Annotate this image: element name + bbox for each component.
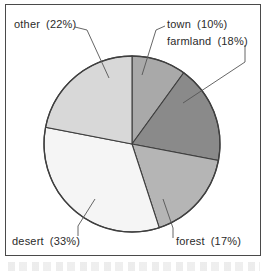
pie-label-desert-percent: (33%) [50,235,80,247]
pie-label-farmland-percent: (18%) [217,35,247,47]
pie-label-town-percent: (10%) [197,18,227,30]
pie-label-other: other(22%) [14,18,76,30]
pie-label-desert: desert(33%) [12,235,80,247]
pie-label-desert-name: desert [12,235,44,247]
pie-chart-figure: other(22%) town(10%) farmland(18%) deser… [0,0,268,273]
pie-label-farmland: farmland(18%) [167,35,248,47]
pie-label-forest-name: forest [176,235,205,247]
pie-label-town-name: town [167,18,191,30]
pie-label-forest-percent: (17%) [211,235,241,247]
scan-artifact-strip [8,262,260,271]
pie-label-farmland-name: farmland [167,35,211,47]
pie-label-forest: forest(17%) [176,235,241,247]
pie-label-other-percent: (22%) [46,18,76,30]
pie-label-town: town(10%) [167,18,227,30]
pie-label-other-name: other [14,18,40,30]
